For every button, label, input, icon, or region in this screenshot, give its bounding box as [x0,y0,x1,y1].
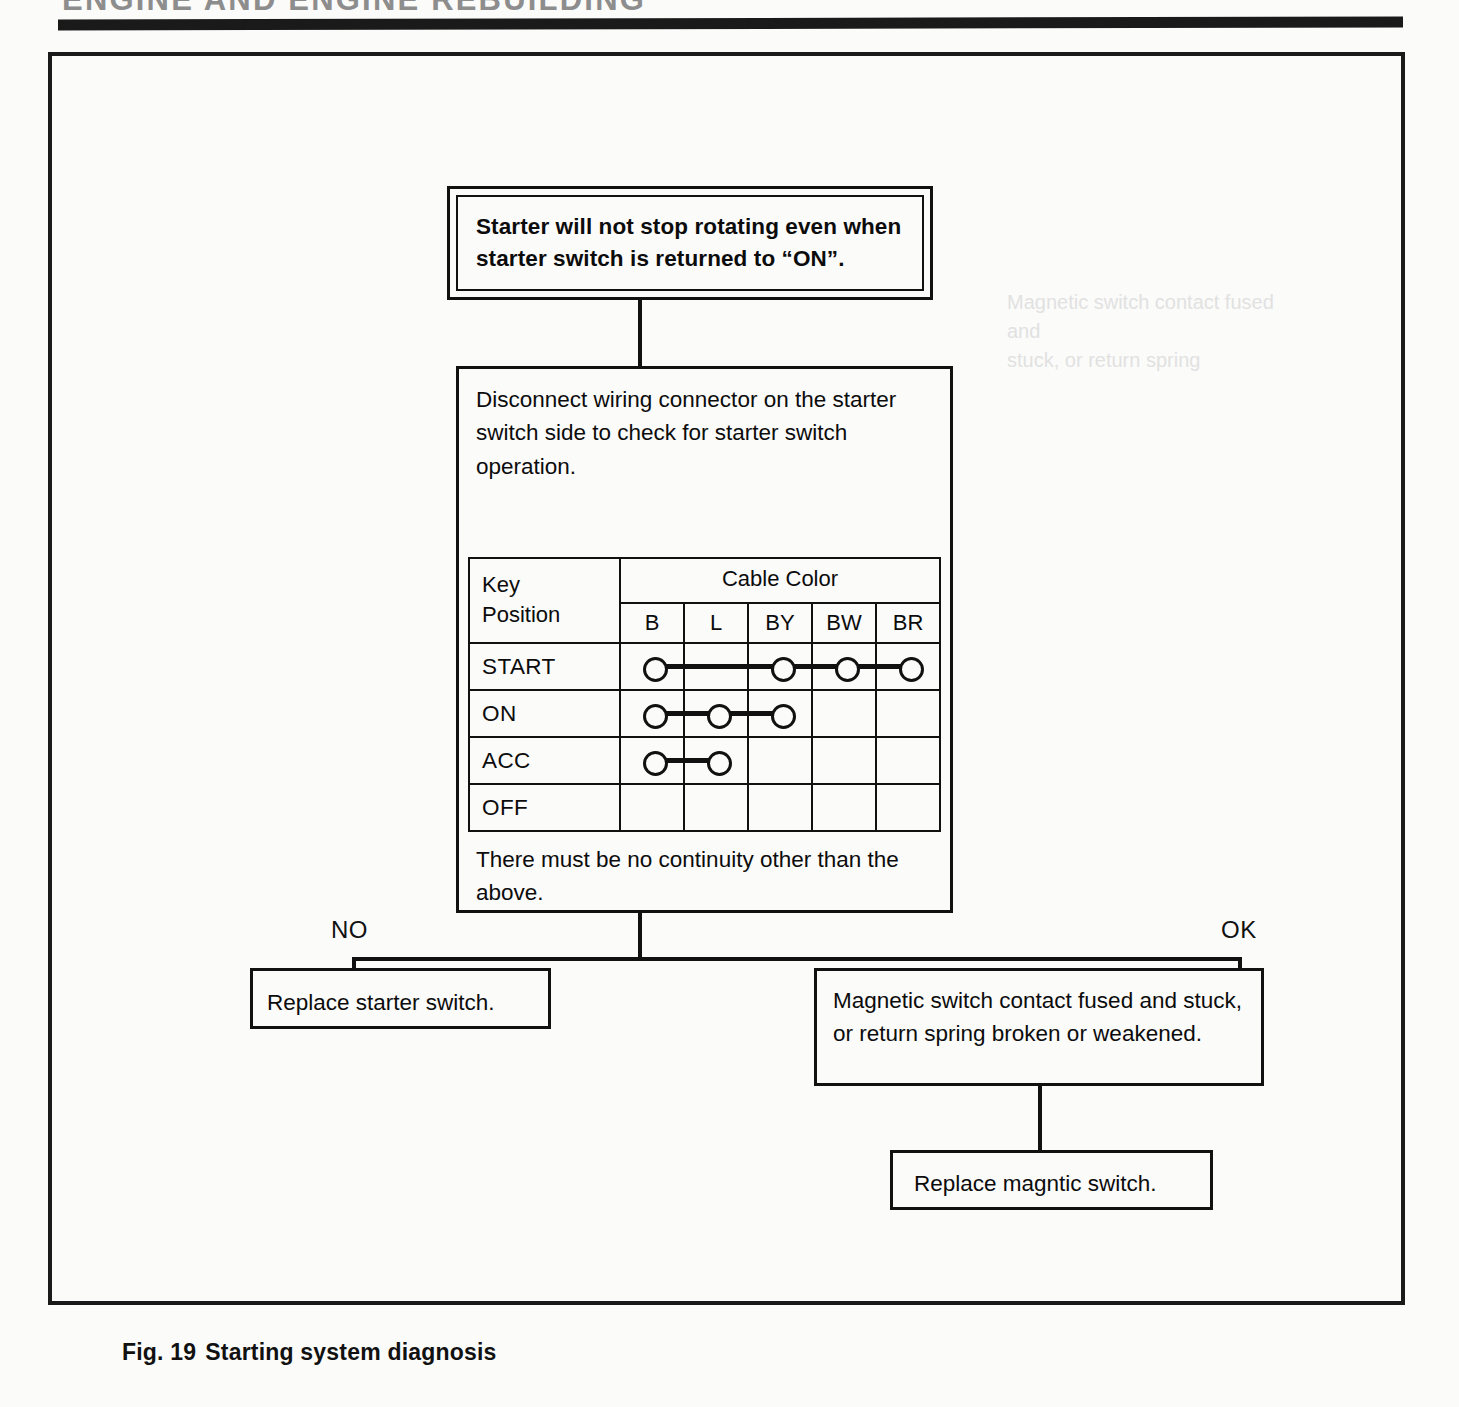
page-canvas: ENGINE AND ENGINE REBUILDING Magnetic sw… [0,0,1459,1407]
continuity-dot [707,751,732,776]
figure-caption: Fig. 19Starting system diagnosis [122,1339,497,1366]
table-row: START [469,643,940,690]
running-head-text: ENGINE AND ENGINE REBUILDING [62,0,646,18]
continuity-dot [643,704,668,729]
connector-magnetic-to-replace [1038,1086,1042,1150]
continuity-cell-bw [812,737,876,784]
continuity-wire [683,664,749,669]
check-box: Disconnect wiring connector on the start… [456,366,953,913]
table-row: ON [469,690,940,737]
symptom-box-text: Starter will not stop rotating even when… [467,202,914,275]
column-header-b: B [620,603,684,643]
header-rule [58,16,1403,30]
continuity-dot [771,704,796,729]
magnetic-switch-cause-text: Magnetic switch contact fused and stuck,… [817,971,1261,1051]
continuity-cell-b [620,690,684,737]
continuity-cell-b [620,643,684,690]
continuity-cell-b [620,737,684,784]
continuity-cell-br [876,690,940,737]
ghost-line-2: stuck, or return spring [1007,349,1200,371]
replace-magnetic-switch-text: Replace magntic switch. [893,1153,1210,1200]
figure-caption-number: Fig. 19 [122,1339,196,1365]
key-position-cell: ON [469,690,620,737]
connector-check-stem [638,913,642,961]
connector-symptom-to-check [638,300,642,366]
continuity-table: Key Position Cable Color B L BY BW BR [468,557,941,832]
continuity-cell-l [684,643,748,690]
continuity-dot [707,704,732,729]
connector-branch-bar [352,957,1242,961]
continuity-cell-bw [812,784,876,831]
column-header-br: BR [876,603,940,643]
key-position-cell: ACC [469,737,620,784]
continuity-cell-l [684,737,748,784]
branch-label-no: NO [331,916,368,944]
key-position-cell: OFF [469,784,620,831]
continuity-cell-by [748,784,812,831]
continuity-cell-by [748,643,812,690]
branch-label-ok: OK [1221,916,1257,944]
column-header-l: L [684,603,748,643]
continuity-dot [643,657,668,682]
key-position-header: Key Position [469,558,620,643]
ghost-line-1: Magnetic switch contact fused and [1007,291,1274,342]
continuity-dot [643,751,668,776]
column-header-bw: BW [812,603,876,643]
continuity-cell-br [876,643,940,690]
continuity-cell-by [748,737,812,784]
continuity-cell-br [876,784,940,831]
cable-color-header: Cable Color [620,558,940,603]
replace-starter-switch-text: Replace starter switch. [253,971,548,1019]
replace-magnetic-switch-box: Replace magntic switch. [890,1150,1213,1210]
continuity-cell-b [620,784,684,831]
table-row: OFF [469,784,940,831]
table-row: ACC [469,737,940,784]
continuity-cell-bw [812,643,876,690]
continuity-cell-bw [812,690,876,737]
continuity-dot [899,657,924,682]
continuity-cell-l [684,784,748,831]
continuity-cell-br [876,737,940,784]
figure-frame: Magnetic switch contact fused and stuck,… [48,52,1405,1305]
magnetic-switch-cause-box: Magnetic switch contact fused and stuck,… [814,968,1264,1086]
key-position-cell: START [469,643,620,690]
figure-caption-title: Starting system diagnosis [205,1339,496,1365]
check-box-tail-text: There must be no continuity other than t… [476,843,934,910]
replace-starter-switch-box: Replace starter switch. [250,968,551,1029]
continuity-dot [835,657,860,682]
key-position-header-line2: Position [482,602,560,627]
symptom-box: Starter will not stop rotating even when… [447,186,933,300]
check-box-lead-text: Disconnect wiring connector on the start… [476,383,928,483]
continuity-table-head: Key Position Cable Color B L BY BW BR [469,558,940,643]
column-header-by: BY [748,603,812,643]
bleed-through-ghost-text: Magnetic switch contact fused and stuck,… [1007,288,1307,375]
key-position-header-line1: Key [482,572,520,597]
table-header-row-1: Key Position Cable Color [469,558,940,603]
continuity-dot [771,657,796,682]
continuity-cell-by [748,690,812,737]
continuity-cell-l [684,690,748,737]
continuity-table-body: STARTONACCOFF [469,643,940,831]
